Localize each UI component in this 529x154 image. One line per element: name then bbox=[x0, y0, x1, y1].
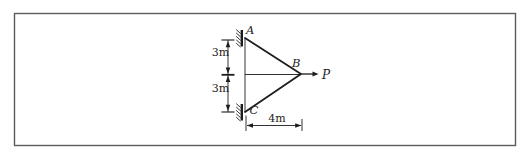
joint-label-b: B bbox=[291, 56, 300, 70]
figure-canvas: 3m 3m 4m P A B C bbox=[0, 0, 529, 154]
joint-label-a: A bbox=[245, 23, 254, 37]
dim-label-lower: 3m bbox=[212, 82, 230, 95]
dim-label-upper: 3m bbox=[212, 46, 230, 59]
support-hatching bbox=[236, 104, 240, 122]
dim-label-base: 4m bbox=[268, 112, 286, 125]
dim-arrow-left bbox=[247, 123, 253, 128]
force-label: P bbox=[321, 68, 331, 82]
force-arrow: P bbox=[302, 68, 331, 82]
wall-support-a-icon bbox=[236, 30, 242, 47]
truss-diagram: 3m 3m 4m P A B C bbox=[0, 0, 529, 154]
dim-arrow-down-middle bbox=[226, 68, 231, 74]
dimension-vertical: 3m 3m bbox=[212, 40, 235, 112]
support-hatching bbox=[236, 30, 240, 47]
dim-arrow-down-bottom bbox=[226, 105, 231, 111]
wall-support-c-icon bbox=[236, 104, 242, 122]
force-arrowhead bbox=[313, 72, 319, 77]
joint-label-c: C bbox=[250, 103, 259, 117]
dim-arrow-right bbox=[295, 123, 301, 128]
